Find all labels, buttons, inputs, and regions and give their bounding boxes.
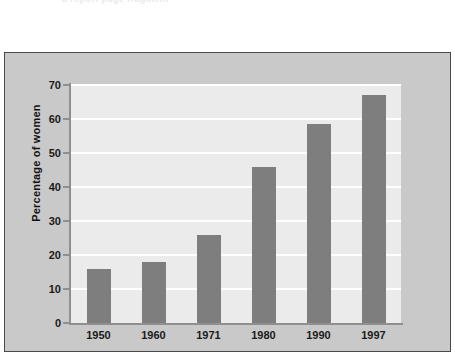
y-axis-tick: [63, 288, 70, 290]
y-axis-tick-label: 0: [21, 317, 61, 329]
x-axis-tick-label-1980: 1980: [234, 329, 294, 341]
chart-plot-area: [71, 85, 401, 323]
bar-1980[interactable]: [252, 167, 276, 323]
chart-figure-frame: 010203040506070 Percentage of women 1950…: [4, 52, 451, 352]
gridline: [71, 254, 401, 256]
y-axis-tick: [63, 220, 70, 222]
y-axis-tick: [63, 254, 70, 256]
x-axis-tick-label-1990: 1990: [289, 329, 349, 341]
y-axis-tick: [63, 84, 70, 86]
scan-header-text-fragment: a report page fragment: [62, 0, 169, 4]
bar-1960[interactable]: [142, 262, 166, 323]
gridline: [71, 288, 401, 290]
x-axis-line: [69, 323, 403, 325]
bar-1971[interactable]: [197, 235, 221, 323]
gridline: [71, 220, 401, 222]
y-axis-tick: [63, 152, 70, 154]
y-axis-tick: [63, 322, 70, 324]
gridline: [71, 186, 401, 188]
y-axis-tick-label: 20: [21, 249, 61, 261]
y-axis-tick-label: 10: [21, 283, 61, 295]
x-axis-tick-label-1950: 1950: [69, 329, 129, 341]
x-axis-tick-label-1971: 1971: [179, 329, 239, 341]
gridline: [71, 118, 401, 120]
bar-1990[interactable]: [307, 124, 331, 323]
y-axis-tick: [63, 118, 70, 120]
gridline: [71, 84, 401, 86]
gridline: [71, 152, 401, 154]
y-axis-tick: [63, 186, 70, 188]
x-axis-tick-label-1960: 1960: [124, 329, 184, 341]
bar-1950[interactable]: [87, 269, 111, 323]
bar-1997[interactable]: [362, 95, 386, 323]
y-axis-title: Percentage of women: [30, 88, 42, 238]
x-axis-tick-label-1997: 1997: [344, 329, 404, 341]
